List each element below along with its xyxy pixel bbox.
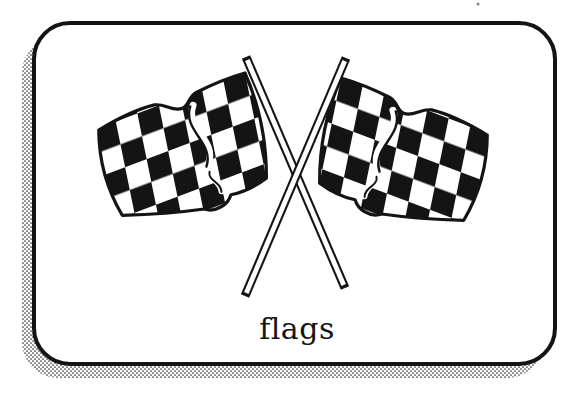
clipart-page: flags	[0, 0, 571, 395]
caption: flags	[259, 311, 335, 346]
scan-speck	[476, 2, 479, 5]
flags-illustration: flags	[0, 0, 571, 395]
